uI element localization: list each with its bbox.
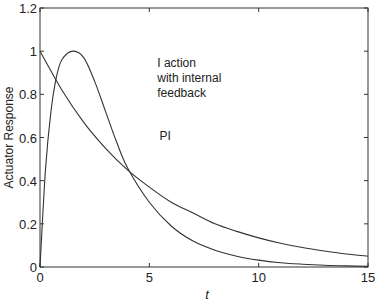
y-axis-label: Actuator Response (2, 86, 16, 188)
axes-box (40, 8, 368, 267)
x-tick-label: 10 (251, 270, 265, 285)
x-axis-label: t (205, 287, 210, 301)
annotation: with internal (156, 71, 221, 85)
y-tick-label: 0.6 (19, 131, 37, 146)
y-tick-label: 0.8 (19, 87, 37, 102)
labels: 05101500.20.40.60.811.2PII actionwith in… (2, 1, 375, 301)
x-tick-label: 0 (36, 270, 43, 285)
plot-area (40, 8, 368, 267)
y-tick-label: 0 (30, 260, 37, 275)
x-tick-label: 5 (146, 270, 153, 285)
y-tick-label: 0.2 (19, 217, 37, 232)
y-tick-label: 1.2 (19, 1, 37, 16)
annotation: feedback (157, 86, 207, 100)
annotation: I action (157, 56, 196, 70)
y-tick-label: 1 (30, 44, 37, 59)
annotation: PI (159, 129, 170, 143)
chart: 05101500.20.40.60.811.2PII actionwith in… (0, 0, 375, 301)
x-tick-label: 15 (361, 270, 375, 285)
y-tick-label: 0.4 (19, 174, 37, 189)
